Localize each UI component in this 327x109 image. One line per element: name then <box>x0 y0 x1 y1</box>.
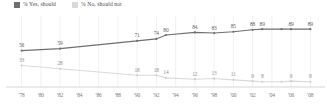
data-point-marker <box>309 81 311 83</box>
data-point-marker <box>232 79 234 81</box>
data-point-label: 83 <box>211 25 217 31</box>
data-point-marker <box>59 48 61 50</box>
data-point-marker <box>213 77 215 79</box>
data-point-marker <box>261 28 263 30</box>
data-point-marker <box>290 80 292 82</box>
data-point-marker <box>21 64 23 66</box>
data-point-label: 8 <box>261 73 264 79</box>
data-point-label: 18 <box>134 67 140 73</box>
data-point-marker <box>165 34 167 36</box>
data-point-label: 12 <box>192 71 198 77</box>
data-point-label: 18 <box>154 67 160 73</box>
data-point-label: 89 <box>308 21 314 27</box>
data-point-marker <box>155 38 157 40</box>
data-point-label: 33 <box>19 57 25 63</box>
data-point-label: 84 <box>192 24 198 30</box>
data-point-marker <box>280 81 282 83</box>
data-point-label: 56 <box>19 42 25 48</box>
x-tick-label: '82 <box>57 92 64 98</box>
data-point-marker <box>280 28 282 30</box>
data-point-marker <box>136 40 138 42</box>
data-point-marker <box>261 81 263 83</box>
data-point-marker <box>165 77 167 79</box>
data-point-label: 80 <box>163 27 169 33</box>
data-point-marker <box>59 68 61 70</box>
chart-x-tick-labels: '78'80'82'84'86'88'90'92'94'96'98'00'02'… <box>18 92 313 98</box>
x-tick-label: '04 <box>269 92 276 98</box>
x-tick-label: '78 <box>18 92 25 98</box>
data-point-label: 74 <box>154 30 160 36</box>
data-point-marker <box>194 78 196 80</box>
data-point-marker <box>21 50 23 52</box>
x-tick-label: '96 <box>192 92 199 98</box>
chart-plot-area: 5659717480848385888989893328181814121311… <box>0 0 327 109</box>
data-point-label: 13 <box>211 70 217 76</box>
x-tick-label: '94 <box>172 92 179 98</box>
data-point-label: 8 <box>309 73 312 79</box>
data-point-marker <box>252 80 254 82</box>
data-point-label: 89 <box>260 21 266 27</box>
data-point-marker <box>252 29 254 31</box>
data-point-label: 85 <box>231 23 237 29</box>
data-point-marker <box>155 74 157 76</box>
data-point-marker <box>194 31 196 33</box>
x-tick-label: '84 <box>76 92 83 98</box>
data-point-marker <box>309 28 311 30</box>
data-point-marker <box>136 74 138 76</box>
x-tick-label: '06 <box>288 92 295 98</box>
x-tick-label: '80 <box>38 92 45 98</box>
data-point-label: 9 <box>290 73 293 79</box>
x-tick-label: '98 <box>211 92 218 98</box>
x-tick-label: '86 <box>95 92 102 98</box>
data-point-label: 89 <box>288 21 294 27</box>
data-point-label: 14 <box>163 69 169 75</box>
x-tick-label: '02 <box>249 92 256 98</box>
chart-container: % Yes, should % No, should not 565971748… <box>0 0 327 109</box>
data-point-label: 28 <box>57 60 63 66</box>
x-tick-label: '08 <box>307 92 314 98</box>
data-point-label: 9 <box>251 73 254 79</box>
data-point-label: 11 <box>231 71 236 77</box>
data-point-marker <box>232 31 234 33</box>
data-point-marker <box>213 32 215 34</box>
x-tick-label: '92 <box>153 92 160 98</box>
data-point-label: 59 <box>57 40 63 46</box>
data-point-label: 88 <box>250 21 256 27</box>
x-tick-label: '88 <box>115 92 122 98</box>
x-tick-label: '90 <box>134 92 141 98</box>
x-tick-label: '00 <box>230 92 237 98</box>
data-point-marker <box>290 28 292 30</box>
data-point-label: 71 <box>134 32 140 38</box>
